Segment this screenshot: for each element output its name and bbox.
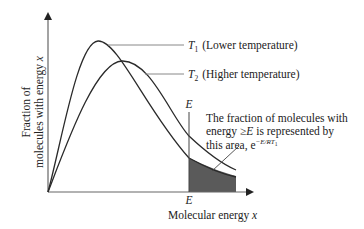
threshold-label-bottom: E — [184, 194, 192, 206]
annotation-line2: energy ≥E is represented by — [206, 125, 334, 138]
annotation-line3: this area, e−E/RT1 — [206, 138, 278, 152]
legend-t1: T1(Lower temperature) — [188, 39, 298, 54]
legend-t2: T2(Higher temperature) — [188, 68, 300, 83]
annotation-line1: The fraction of molecules with — [206, 112, 348, 124]
x-axis-label: Molecular energy x — [168, 209, 258, 222]
maxwell-boltzmann-diagram: Fraction of molecules with energy x T1(L… — [0, 0, 364, 229]
y-axis-label-line2: molecules with energy x — [33, 55, 46, 168]
y-axis-label-line1: Fraction of — [20, 86, 32, 137]
threshold-label-top: E — [184, 98, 192, 110]
